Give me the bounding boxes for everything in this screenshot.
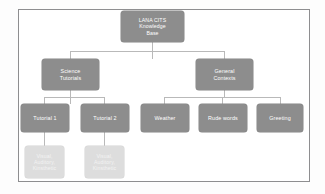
node-modalities-tutorial-2[interactable]: Visual, Auditory, Kinsthetic [85, 146, 124, 178]
node-weather-label: Weather [143, 115, 187, 121]
node-modalities-tutorial-1[interactable]: Visual, Auditory, Kinsthetic [25, 146, 64, 178]
knowledge-base-diagram: LANA CITS Knowledge Base Science Tutoria… [0, 0, 325, 194]
node-rude-words-label: Rude words [201, 115, 245, 121]
node-root-label: LANA CITS Knowledge Base [123, 17, 182, 35]
node-tutorial-2-label: Tutorial 2 [83, 115, 127, 121]
node-root-knowledge-base[interactable]: LANA CITS Knowledge Base [121, 11, 184, 42]
node-greeting[interactable]: Greeting [257, 104, 303, 132]
node-rude-words[interactable]: Rude words [199, 104, 247, 132]
node-science-tutorials[interactable]: Science Tutorials [42, 59, 99, 90]
node-modalities-tutorial-1-label: Visual, Auditory, Kinsthetic [27, 153, 62, 171]
node-weather[interactable]: Weather [141, 104, 189, 132]
node-general-contexts[interactable]: General Contexts [196, 59, 253, 90]
node-greeting-label: Greeting [259, 115, 301, 121]
node-tutorial-2[interactable]: Tutorial 2 [81, 104, 129, 132]
node-science-tutorials-label: Science Tutorials [44, 68, 97, 81]
node-general-contexts-label: General Contexts [198, 68, 251, 81]
node-tutorial-1-label: Tutorial 1 [23, 115, 67, 121]
node-modalities-tutorial-2-label: Visual, Auditory, Kinsthetic [87, 153, 122, 171]
node-tutorial-1[interactable]: Tutorial 1 [21, 104, 69, 132]
